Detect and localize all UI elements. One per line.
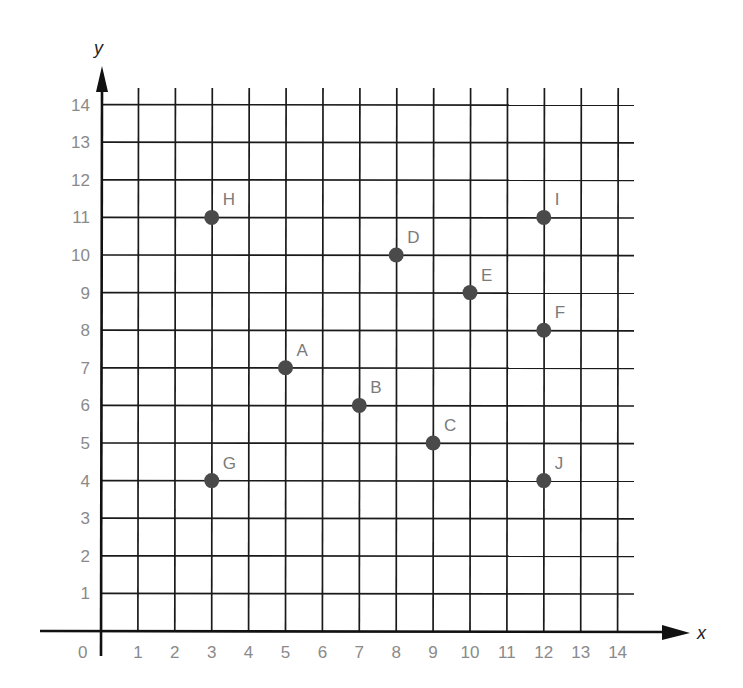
x-tick-label: 11 [498, 643, 516, 662]
grid-vertical-line [138, 88, 139, 631]
x-tick-label: 13 [571, 643, 590, 662]
grid-vertical-line [175, 88, 176, 631]
grid-horizontal-line [101, 443, 634, 444]
y-tick-label: 11 [72, 208, 90, 227]
y-tick-label: 13 [71, 133, 90, 152]
grid-vertical-line [286, 88, 287, 631]
x-tick-label: 6 [318, 643, 327, 662]
grid-horizontal-line [101, 105, 634, 106]
grid-vertical-line [581, 88, 582, 631]
y-tick-label: 3 [81, 509, 90, 528]
x-tick-label: 14 [608, 643, 627, 662]
grid-vertical-line [212, 88, 213, 631]
x-axis-arrow-icon [662, 625, 690, 640]
grid-vertical-line [544, 88, 545, 631]
y-tick-label: 8 [81, 321, 90, 340]
point-marker-icon [536, 473, 551, 488]
y-axis-arrow-icon [96, 66, 108, 92]
y-tick-label: 7 [81, 359, 90, 378]
grid-horizontal-line [101, 255, 634, 256]
point-marker-icon [352, 398, 367, 413]
y-tick-label: 12 [71, 171, 90, 190]
grid-horizontal-line [101, 180, 634, 181]
x-tick-labels: 1234567891011121314 [133, 643, 627, 662]
grid-vertical-line [507, 88, 508, 631]
point-label: G [223, 454, 236, 473]
coordinate-grid-chart: x y 0 1234567891011121314 12345678910111… [0, 0, 743, 688]
grid-vertical-line [249, 88, 250, 631]
data-point-c: C [426, 416, 457, 451]
data-point-e: E [463, 266, 493, 301]
grid-horizontal-line [101, 518, 634, 519]
point-label: J [555, 454, 564, 473]
point-label: C [444, 416, 456, 435]
y-tick-labels: 1234567891011121314 [71, 96, 90, 604]
grid-horizontal-line [101, 142, 634, 143]
point-label: D [407, 228, 419, 247]
y-axis-label: y [92, 38, 104, 58]
point-marker-icon [204, 473, 219, 488]
y-tick-label: 14 [71, 96, 90, 115]
y-tick-label: 1 [81, 584, 90, 603]
grid-horizontal-line [101, 481, 634, 482]
x-tick-label: 8 [391, 643, 400, 662]
point-marker-icon [389, 248, 404, 263]
data-point-d: D [389, 228, 420, 263]
grid-vertical-line [359, 88, 360, 631]
point-label: H [223, 190, 235, 209]
grid-vertical-line [470, 88, 471, 631]
data-point-i: I [536, 190, 559, 225]
grid-vertical-line [618, 88, 619, 631]
x-tick-label: 5 [281, 643, 290, 662]
point-marker-icon [204, 210, 219, 225]
point-label: E [481, 266, 492, 285]
grid-horizontal-line [101, 217, 634, 218]
grid-horizontal-line [101, 330, 634, 331]
x-tick-label: 2 [170, 643, 179, 662]
point-label: A [297, 341, 309, 360]
grid-vertical-line [433, 88, 434, 631]
y-tick-label: 6 [81, 396, 90, 415]
origin-label: 0 [78, 643, 87, 662]
y-tick-label: 2 [81, 547, 90, 566]
point-marker-icon [463, 285, 478, 300]
point-label: I [555, 190, 560, 209]
data-point-g: G [204, 454, 236, 489]
x-tick-label: 3 [207, 643, 216, 662]
point-label: B [370, 378, 381, 397]
y-axis [101, 92, 102, 656]
grid-horizontal-line [101, 405, 634, 406]
grid-horizontal-line [101, 593, 634, 594]
x-tick-label: 12 [534, 643, 553, 662]
x-tick-label: 7 [355, 643, 364, 662]
y-tick-label: 4 [81, 472, 90, 491]
y-tick-label: 9 [81, 284, 90, 303]
point-marker-icon [536, 323, 551, 338]
x-tick-label: 4 [244, 643, 253, 662]
x-axis [40, 631, 668, 632]
x-tick-label: 1 [133, 643, 142, 662]
x-tick-label: 10 [461, 643, 480, 662]
point-marker-icon [426, 436, 441, 451]
grid-horizontal-line [101, 293, 634, 294]
grid-horizontal-line [101, 556, 634, 557]
grid-lines [101, 88, 634, 631]
x-axis-label: x [696, 623, 707, 643]
point-label: F [555, 303, 565, 322]
data-point-h: H [204, 190, 235, 225]
y-tick-label: 10 [71, 246, 90, 265]
point-marker-icon [278, 360, 293, 375]
point-marker-icon [536, 210, 551, 225]
axes: x y 0 [40, 38, 707, 662]
data-point-f: F [536, 303, 565, 338]
data-point-j: J [536, 454, 563, 489]
y-tick-label: 5 [81, 434, 90, 453]
data-point-b: B [352, 378, 382, 413]
grid-vertical-line [322, 88, 323, 631]
data-point-a: A [278, 341, 309, 376]
x-tick-label: 9 [428, 643, 437, 662]
grid-horizontal-line [101, 368, 634, 369]
grid-vertical-line [396, 88, 397, 631]
